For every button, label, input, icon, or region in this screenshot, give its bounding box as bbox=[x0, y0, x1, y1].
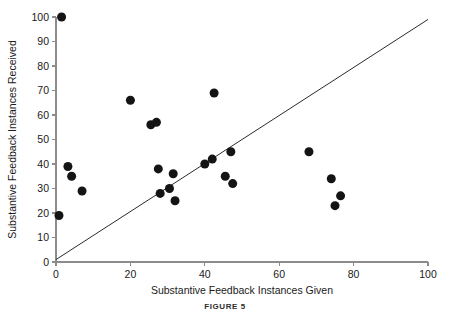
data-point bbox=[156, 189, 165, 198]
x-tick-label: 40 bbox=[199, 268, 211, 280]
data-point bbox=[200, 160, 209, 169]
x-tick-label: 0 bbox=[53, 268, 59, 280]
data-point bbox=[78, 186, 87, 195]
y-tick-label: 40 bbox=[37, 158, 49, 170]
y-tick-label: 30 bbox=[37, 182, 49, 194]
y-axis-title: Substantive Feedback Instances Received bbox=[6, 40, 18, 239]
figure-container: 0102030405060708090100020406080100Substa… bbox=[0, 0, 450, 313]
data-point bbox=[169, 169, 178, 178]
figure-caption: FIGURE 5 bbox=[0, 300, 450, 313]
data-point bbox=[226, 147, 235, 156]
x-tick-label: 20 bbox=[125, 268, 137, 280]
data-point bbox=[67, 172, 76, 181]
data-point bbox=[152, 118, 161, 127]
x-tick-label: 60 bbox=[273, 268, 285, 280]
data-point bbox=[304, 147, 313, 156]
data-point bbox=[57, 13, 66, 22]
data-point bbox=[126, 96, 135, 105]
y-tick-label: 70 bbox=[37, 84, 49, 96]
reference-line bbox=[56, 19, 428, 259]
data-point bbox=[228, 179, 237, 188]
y-tick-label: 80 bbox=[37, 60, 49, 72]
data-point bbox=[331, 201, 340, 210]
x-tick-label: 80 bbox=[348, 268, 360, 280]
y-tick-label: 100 bbox=[31, 11, 49, 23]
scatter-plot: 0102030405060708090100020406080100Substa… bbox=[0, 0, 450, 300]
data-point bbox=[171, 196, 180, 205]
data-point bbox=[336, 191, 345, 200]
y-tick-label: 50 bbox=[37, 133, 49, 145]
data-point bbox=[154, 164, 163, 173]
y-tick-label: 60 bbox=[37, 109, 49, 121]
data-point bbox=[54, 211, 63, 220]
y-tick-label: 20 bbox=[37, 207, 49, 219]
y-tick-label: 10 bbox=[37, 231, 49, 243]
y-tick-label: 0 bbox=[43, 256, 49, 268]
data-point bbox=[221, 172, 230, 181]
y-tick-label: 90 bbox=[37, 35, 49, 47]
data-point bbox=[63, 162, 72, 171]
data-point bbox=[210, 88, 219, 97]
x-axis-title: Substantive Feedback Instances Given bbox=[151, 284, 333, 296]
data-point bbox=[165, 184, 174, 193]
data-point bbox=[327, 174, 336, 183]
data-point bbox=[208, 155, 217, 164]
x-tick-label: 100 bbox=[419, 268, 437, 280]
